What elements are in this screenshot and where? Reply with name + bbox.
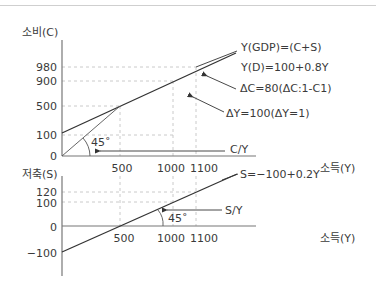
dy-label: ΔY=100(ΔY=1)	[226, 107, 310, 120]
angle-label: 45˚	[91, 136, 111, 149]
ytick-0: 0	[50, 150, 57, 163]
xtick-1100: 1100	[190, 232, 218, 245]
xtick-1000: 1000	[157, 232, 185, 245]
ytick-100: 100	[36, 197, 57, 210]
xtick-500: 500	[114, 232, 135, 245]
y-axis-label: 소비(C)	[22, 26, 58, 39]
ytick-100: 100	[36, 129, 57, 142]
gdp-label: Y(GDP)=(C+S)	[240, 41, 322, 54]
xtick-1000: 1000	[157, 162, 185, 175]
dy-arrow	[193, 97, 224, 112]
sy-label: S/Y	[225, 204, 243, 217]
angle-arc	[158, 210, 163, 226]
gdp-pointer	[196, 51, 237, 67]
chart-svg: 소비(C) 980 900 500 100 0 500 1000 1100 소득…	[0, 0, 376, 295]
saving-chart: 저축(S) 120 100 0 −100 500 1000 1100 소득(Y)…	[22, 168, 355, 276]
s-pointer	[222, 174, 238, 180]
dc-label: ΔC=80(ΔC:1-C1)	[240, 82, 332, 95]
consumption-line	[62, 53, 236, 133]
x-axis-label: 소득(Y)	[320, 232, 355, 245]
ytick-minus100: −100	[27, 247, 57, 260]
angle-label: 45˚	[168, 212, 188, 225]
xtick-1100: 1100	[190, 162, 218, 175]
x-axis-label: 소득(Y)	[320, 162, 355, 175]
dc-arrow	[207, 76, 236, 89]
angle-arc	[83, 138, 90, 156]
ytick-900: 900	[36, 75, 57, 88]
yd-label: Y(D)=100+0.8Y	[240, 61, 329, 74]
xtick-500: 500	[112, 162, 133, 175]
y-axis-label: 저축(S)	[22, 168, 58, 181]
ytick-500: 500	[36, 100, 57, 113]
s-label: S=−100+0.2Y	[240, 168, 320, 181]
consumption-chart: 소비(C) 980 900 500 100 0 500 1000 1100 소득…	[22, 26, 355, 175]
ytick-0: 0	[50, 221, 57, 234]
ytick-980: 980	[36, 61, 57, 74]
cy-label: C/Y	[230, 143, 248, 156]
